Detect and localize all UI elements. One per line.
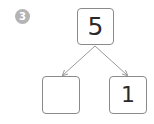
whole-box: 5 bbox=[77, 8, 114, 45]
left-connector-arrow bbox=[63, 46, 95, 75]
part-box-left[interactable] bbox=[42, 76, 80, 114]
part-box-right: 1 bbox=[109, 76, 147, 114]
right-connector-arrow bbox=[95, 46, 127, 75]
